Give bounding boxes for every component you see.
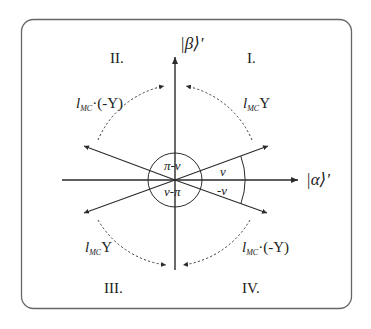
quadrant-label-III: III. [104,280,123,297]
angle-label-nu-minus-pi: ν-π [164,184,181,200]
operator-label-q2: lMC·(-Υ) [76,95,123,113]
ray-q3 [84,180,175,213]
operator-subscript: MC [247,104,259,113]
quadrant-label-II: II. [110,50,124,67]
quadrant-label-I: I. [247,50,256,67]
operator-rest: ·(-Υ) [92,95,123,111]
operator-rest: Υ [259,95,270,111]
operator-subscript: MC [246,248,258,257]
horizontal-axis-label: |α⟩′ [306,169,330,190]
diagram-frame [22,20,352,309]
angle-label-pi-minus-nu: π-ν [164,158,181,174]
angle-label-minus-nu: -ν [217,183,227,199]
operator-rest: Υ [101,239,112,255]
operator-label-q4: lMC·(-Υ) [242,239,289,257]
quadrant-label-IV: IV. [242,280,260,297]
ray-q2 [84,146,175,180]
angle-label-nu: ν [220,164,226,180]
operator-label-q3: lMCΥ [85,239,112,257]
rotation-diagram: |β⟩′ |α⟩′ II. I. III. IV. π-ν ν-π ν -ν l… [0,0,371,329]
operator-rest: ·(-Υ) [258,239,289,255]
vertical-axis-label: |β⟩′ [180,33,204,54]
operator-subscript: MC [89,248,101,257]
operator-subscript: MC [80,104,92,113]
dashed-arc-q4 [183,220,250,265]
operator-label-q1: lMCΥ [243,95,270,113]
